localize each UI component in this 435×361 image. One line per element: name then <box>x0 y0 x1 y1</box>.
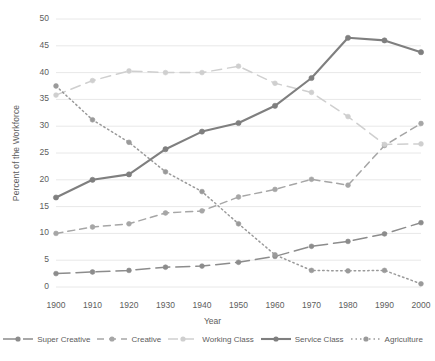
legend-label: Working Class <box>202 335 253 344</box>
y-tick-label: 10 <box>23 227 49 237</box>
legend-label: Service Class <box>295 335 344 344</box>
data-point <box>200 209 205 214</box>
data-point <box>419 121 424 126</box>
y-tick-label: 5 <box>23 254 49 264</box>
y-tick-label: 20 <box>23 174 49 184</box>
data-point <box>200 189 205 194</box>
data-point <box>200 264 205 269</box>
data-point <box>272 103 277 108</box>
data-point <box>126 172 131 177</box>
legend-item-creative[interactable]: Creative <box>96 334 161 344</box>
data-point <box>309 177 314 182</box>
data-point <box>163 169 168 174</box>
y-tick-label: 25 <box>23 147 49 157</box>
legend-label: Creative <box>131 335 161 344</box>
legend-item-agriculture[interactable]: Agriculture <box>350 334 423 344</box>
data-point <box>236 260 241 265</box>
x-tick-label: 1980 <box>328 300 368 310</box>
x-tick-label: 1930 <box>146 300 186 310</box>
legend-marker-icon <box>96 334 128 344</box>
series-line-working-class <box>56 66 421 144</box>
data-point <box>346 114 351 119</box>
data-point <box>163 147 168 152</box>
chart-legend: Super CreativeCreativeWorking ClassServi… <box>0 334 425 344</box>
y-tick-label: 35 <box>23 93 49 103</box>
data-point <box>54 84 59 89</box>
y-tick-label: 15 <box>23 201 49 211</box>
series-line-creative <box>56 124 421 234</box>
y-tick-label: 40 <box>23 67 49 77</box>
data-point <box>90 177 95 182</box>
series-line-agriculture <box>56 86 421 284</box>
data-point <box>382 38 387 43</box>
data-point <box>54 271 59 276</box>
y-tick-label: 50 <box>23 13 49 23</box>
data-point <box>382 268 387 273</box>
data-point <box>163 70 168 75</box>
x-tick-label: 1960 <box>255 300 295 310</box>
data-point <box>382 142 387 147</box>
x-tick-label: 1950 <box>219 300 259 310</box>
data-point <box>90 117 95 122</box>
y-tick-label: 30 <box>23 120 49 130</box>
data-point <box>90 270 95 275</box>
data-point <box>309 90 314 95</box>
data-point <box>127 69 132 74</box>
legend-label: Super Creative <box>37 335 90 344</box>
x-tick-label: 1920 <box>109 300 149 310</box>
legend-marker-icon <box>2 334 34 344</box>
legend-item-service-class[interactable]: Service Class <box>260 334 344 344</box>
data-point <box>127 268 132 273</box>
legend-marker-icon <box>260 334 292 344</box>
x-tick-label: 1900 <box>36 300 76 310</box>
x-axis-title: Year <box>0 316 425 326</box>
data-point <box>53 195 58 200</box>
data-point <box>346 239 351 244</box>
data-point <box>200 70 205 75</box>
data-point <box>236 221 241 226</box>
data-point <box>236 64 241 69</box>
data-point <box>236 120 241 125</box>
data-point <box>346 269 351 274</box>
legend-item-working-class[interactable]: Working Class <box>167 334 253 344</box>
x-tick-label: 1940 <box>182 300 222 310</box>
y-tick-label: 0 <box>23 281 49 291</box>
data-point <box>127 221 132 226</box>
data-point <box>199 129 204 134</box>
data-point <box>90 78 95 83</box>
legend-item-super-creative[interactable]: Super Creative <box>2 334 90 344</box>
data-point <box>127 140 132 145</box>
legend-marker-icon <box>167 334 199 344</box>
data-point <box>309 75 314 80</box>
data-point <box>54 231 59 236</box>
data-point <box>163 211 168 216</box>
series-line-super-creative <box>56 223 421 274</box>
data-point <box>419 281 424 286</box>
legend-marker-icon <box>350 334 382 344</box>
data-point <box>309 268 314 273</box>
legend-label: Agriculture <box>385 335 423 344</box>
data-point <box>346 183 351 188</box>
data-point <box>418 50 423 55</box>
data-point <box>273 187 278 192</box>
x-tick-label: 1910 <box>73 300 113 310</box>
data-point <box>236 195 241 200</box>
data-point <box>54 93 59 98</box>
data-point <box>273 81 278 86</box>
data-point <box>309 244 314 249</box>
data-point <box>90 225 95 230</box>
data-point <box>382 232 387 237</box>
data-point <box>419 142 424 147</box>
series-line-service-class <box>56 38 421 198</box>
x-tick-label: 1970 <box>292 300 332 310</box>
data-point <box>163 265 168 270</box>
y-axis-title: Percent of the Workforce <box>11 73 21 233</box>
data-point <box>419 220 424 225</box>
y-tick-label: 45 <box>23 40 49 50</box>
data-point <box>273 252 278 257</box>
data-point <box>345 35 350 40</box>
x-tick-label: 1990 <box>365 300 405 310</box>
x-tick-label: 2000 <box>401 300 435 310</box>
